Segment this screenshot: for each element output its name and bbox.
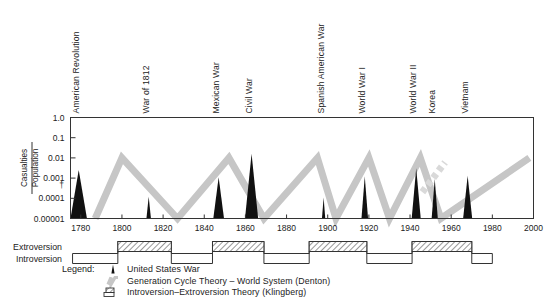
legend-title: Legend: [62, 264, 95, 274]
x-tick-label-10: 1980 [483, 223, 502, 233]
war-label-6: World War I [357, 67, 367, 114]
extroversion-segment-1 [118, 242, 172, 252]
war-label-1: American Revolution [71, 31, 81, 113]
introversion-label: Introversion [16, 254, 62, 264]
x-tick-label-2: 1820 [154, 223, 173, 233]
war-label-4: Civil War [244, 78, 254, 113]
extroversion-label: Extroversion [13, 242, 62, 252]
legend-item-text-3: Introversion–Extroversion Theory (Klingb… [127, 287, 306, 297]
legend-item-text-1: United States War [127, 264, 200, 274]
x-tick-label-5: 1880 [277, 223, 296, 233]
x-tick-label-4: 1860 [236, 223, 255, 233]
war-label-2: War of 1812 [141, 65, 151, 113]
x-tick-label-7: 1920 [359, 223, 378, 233]
war-label-9: Vietnam [460, 81, 470, 113]
extroversion-segment-3 [309, 242, 367, 252]
war-label-3: Mexican War [211, 62, 221, 113]
y-axis-dagger-marker: † [59, 180, 64, 190]
casualties-population-chart: American RevolutionWar of 1812Mexican Wa… [0, 0, 554, 298]
y-axis-numerator: Casualties [20, 149, 29, 187]
extroversion-segment-4 [412, 242, 472, 252]
war-label-5: Spanish American War [316, 23, 326, 113]
chart-svg: American RevolutionWar of 1812Mexican Wa… [0, 0, 554, 298]
x-tick-label-8: 1940 [401, 223, 420, 233]
x-tick-label-9: 1960 [442, 223, 461, 233]
y-tick-label-5: 0.00001 [34, 214, 65, 224]
war-label-7: World War II [408, 64, 418, 113]
legend-symbol-hatched-box-upper [106, 288, 114, 293]
legend-item-text-2: Generation Cycle Theory – World System (… [127, 276, 330, 286]
y-tick-label-1: 0.1 [53, 133, 65, 143]
x-tick-label-1: 1800 [112, 223, 131, 233]
y-tick-label-0: 1.0 [53, 113, 65, 123]
y-tick-label-4: 0.0001 [39, 193, 65, 203]
x-tick-label-0: 1780 [71, 223, 90, 233]
x-tick-label-3: 1840 [195, 223, 214, 233]
extroversion-segment-2 [212, 242, 263, 252]
x-tick-label-6: 1900 [318, 223, 337, 233]
y-tick-label-2: 0.01 [48, 153, 65, 163]
x-tick-label-11: 2000 [524, 223, 543, 233]
war-label-8: Korea [427, 90, 437, 114]
